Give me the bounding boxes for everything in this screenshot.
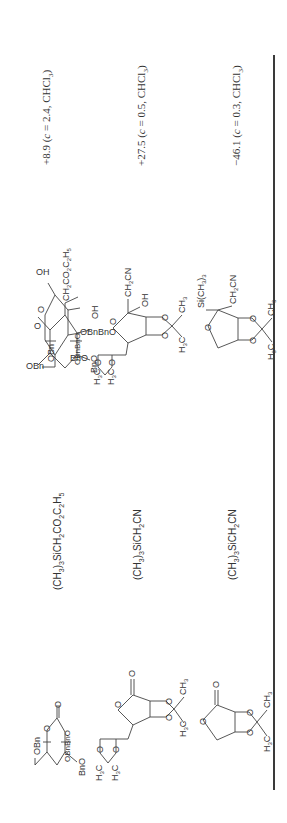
lactone-row-1: OBn O O OBnBnO BnO: [15, 670, 90, 780]
product-row-2: O O O O O OH CH2CN CH3 H3C H3C H3C: [88, 255, 188, 385]
svg-text:O: O: [203, 324, 213, 331]
rotation-row-2: +27.5 (c = 0.5, CHCl3): [135, 65, 150, 166]
product-row-3: O O O Si(CH3)3 CH2CN CH3 H3C: [190, 260, 275, 370]
lactone-row-3: O O O O CH3 H3C: [195, 680, 275, 780]
label-obn: OBn: [46, 344, 56, 362]
svg-text:H3C: H3C: [94, 764, 105, 781]
svg-text:H3C: H3C: [110, 764, 121, 781]
svg-text:H3C: H3C: [266, 343, 277, 360]
table-bottom-rule: [273, 55, 275, 790]
svg-text:O: O: [93, 359, 103, 366]
svg-text:O: O: [164, 714, 174, 721]
svg-text:OBnBnO: OBnBnO: [63, 730, 72, 762]
svg-text:O: O: [245, 709, 255, 716]
svg-text:O: O: [111, 746, 121, 753]
svg-text:OH: OH: [140, 294, 150, 308]
svg-text:O: O: [108, 318, 118, 325]
svg-text:BnO: BnO: [77, 758, 87, 776]
svg-text:CH2CN: CH2CN: [123, 268, 134, 297]
svg-text:CH2CO2C2H5: CH2CO2C2H5: [61, 247, 72, 301]
svg-text:O: O: [198, 718, 208, 725]
svg-text:H3C: H3C: [106, 368, 117, 385]
svg-text:O: O: [42, 725, 52, 732]
svg-text:O: O: [127, 670, 137, 677]
svg-text:O: O: [245, 729, 255, 736]
svg-text:O: O: [160, 332, 170, 339]
svg-text:O: O: [160, 314, 170, 321]
svg-text:O: O: [248, 337, 258, 344]
svg-text:H3C: H3C: [178, 720, 189, 737]
svg-text:Si(CH3)3: Si(CH3)3: [196, 274, 207, 308]
svg-text:O: O: [164, 698, 174, 705]
reagent-row-1: (CH3)3SiCH2CO2C2H5: [52, 493, 65, 590]
svg-text:CH3: CH3: [177, 296, 188, 313]
svg-text:CH3: CH3: [266, 299, 277, 316]
svg-text:H3C: H3C: [262, 735, 273, 752]
svg-text:O: O: [113, 701, 123, 708]
rotation-row-3: −46.1 (c = 0.3, CHCl3): [230, 65, 245, 166]
svg-text:OBn: OBn: [32, 737, 42, 755]
reagent-row-3: (CH3)3SiCH2CN: [227, 509, 240, 580]
svg-text:O: O: [36, 306, 46, 313]
lactone-row-2: O O O O O O CH3 H3C H3C H3C: [88, 665, 193, 795]
svg-text:O: O: [107, 359, 117, 366]
svg-text:CH2CN: CH2CN: [228, 275, 239, 304]
svg-text:H3C: H3C: [177, 336, 188, 353]
svg-text:O: O: [53, 701, 63, 708]
svg-text:O: O: [211, 681, 221, 688]
svg-text:OBnBnO: OBnBnO: [73, 333, 82, 365]
svg-text:O: O: [248, 315, 258, 322]
rotation-row-1: +8.9 (c = 2.4, CHCl3): [40, 70, 55, 165]
svg-text:H3C: H3C: [92, 368, 103, 385]
reagent-row-2: (CH3)3SiCH2CN: [132, 509, 145, 580]
svg-text:O: O: [95, 746, 105, 753]
svg-text:CH3: CH3: [262, 691, 273, 708]
svg-text:CH3: CH3: [178, 678, 189, 695]
